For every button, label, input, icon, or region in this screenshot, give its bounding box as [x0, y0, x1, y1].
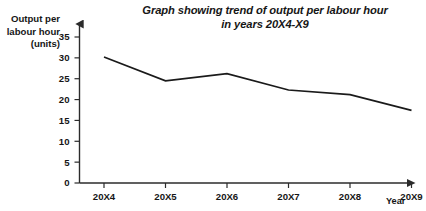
- y-axis-ticks: [75, 37, 80, 183]
- chart-screenshot: Graph showing trend of output per labour…: [0, 0, 426, 211]
- y-axis-tick-label: 20: [59, 94, 70, 105]
- line-chart-plot: 05101520253035 20X420X520X620X720X820X9: [0, 0, 426, 211]
- x-axis-tick-labels: 20X420X520X620X720X820X9: [93, 191, 423, 202]
- y-axis-tick-label: 5: [64, 157, 70, 168]
- y-axis-tick-labels: 05101520253035: [59, 31, 70, 188]
- x-axis-tick-label: 20X5: [154, 191, 177, 202]
- y-axis-tick-label: 30: [59, 52, 70, 63]
- y-axis-tick-label: 15: [59, 115, 70, 126]
- y-axis-tick-label: 35: [59, 31, 70, 42]
- y-axis-tick-label: 10: [59, 136, 70, 147]
- x-axis-ticks: [104, 183, 412, 188]
- x-axis-tick-label: 20X6: [216, 191, 238, 202]
- y-axis-tick-label: 25: [59, 73, 70, 84]
- y-axis-tick-label: 0: [64, 177, 69, 188]
- x-axis-tick-label: 20X4: [93, 191, 116, 202]
- x-axis-tick-label: 20X8: [339, 191, 362, 202]
- x-axis-label: Year: [386, 196, 405, 206]
- data-series-line: [104, 57, 412, 110]
- x-axis-tick-label: 20X7: [277, 191, 299, 202]
